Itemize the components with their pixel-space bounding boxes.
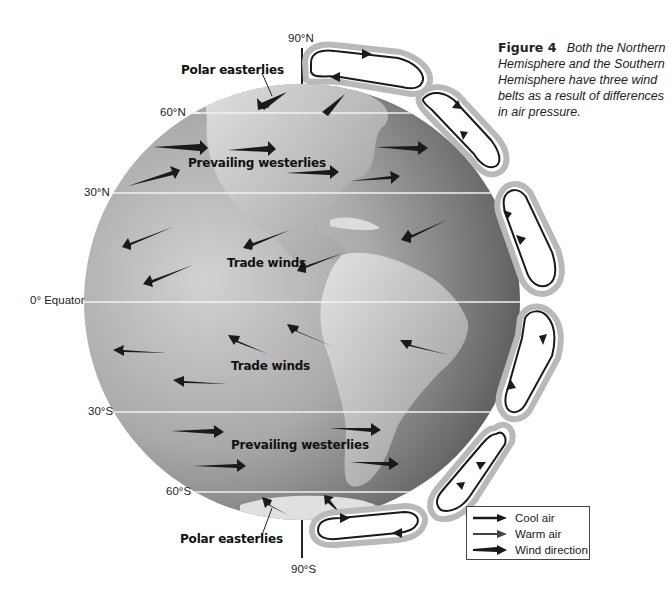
label-polar-easterlies-south: Polar easterlies bbox=[180, 532, 283, 546]
legend-item-wind-direction: Wind direction bbox=[473, 542, 588, 557]
legend-item-warm-air: Warm air bbox=[473, 526, 561, 541]
lat-label-90s: 90°S bbox=[291, 563, 316, 575]
legend: Cool air Warm air Wind direction bbox=[466, 506, 590, 560]
legend-label-cool-air: Cool air bbox=[515, 512, 555, 524]
label-trade-winds-south: Trade winds bbox=[231, 359, 310, 373]
cool-air-arrow-icon bbox=[473, 514, 507, 522]
legend-label-wind-direction: Wind direction bbox=[515, 544, 588, 556]
label-polar-easterlies-north: Polar easterlies bbox=[181, 63, 284, 77]
label-prevailing-westerlies-north: Prevailing westerlies bbox=[188, 156, 326, 170]
lat-label-60s: 60°S bbox=[166, 485, 191, 497]
lat-label-30s: 30°S bbox=[88, 405, 113, 417]
lat-label-equator: 0° Equator bbox=[30, 294, 84, 306]
lat-label-90n: 90°N bbox=[288, 32, 314, 44]
lat-label-30n: 30°N bbox=[84, 186, 110, 198]
figure-caption: Figure 4 Both the Northern Hemisphere an… bbox=[498, 40, 670, 120]
figure-label: Figure 4 bbox=[498, 40, 556, 55]
legend-label-warm-air: Warm air bbox=[515, 528, 561, 540]
label-prevailing-westerlies-south: Prevailing westerlies bbox=[231, 438, 369, 452]
lat-label-60n: 60°N bbox=[160, 106, 186, 118]
wind-belts-diagram: 90°N 60°N 30°N 0° Equator 30°S 60°S 90°S… bbox=[0, 0, 672, 600]
wind-direction-arrow-icon bbox=[473, 545, 507, 555]
label-trade-winds-north: Trade winds bbox=[227, 256, 306, 270]
warm-air-arrow-icon bbox=[473, 530, 507, 538]
legend-item-cool-air: Cool air bbox=[473, 510, 555, 525]
